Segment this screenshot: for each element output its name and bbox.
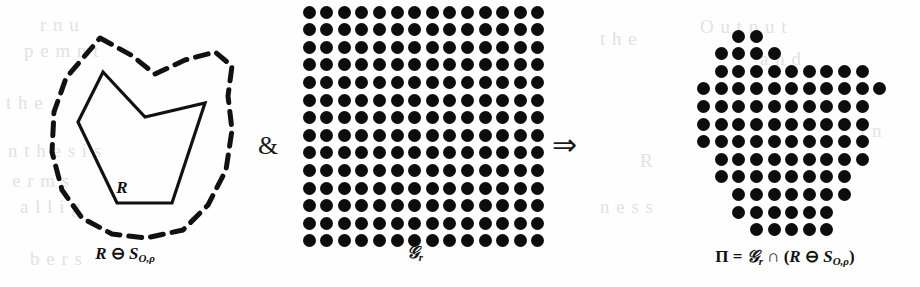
intersection-dot (750, 82, 763, 95)
intersection-dot (732, 65, 745, 78)
intersection-dot (697, 82, 710, 95)
intersection-dot (856, 100, 869, 113)
intersection-dot (785, 206, 798, 219)
caption-equals: = (729, 247, 747, 266)
intersection-dot (820, 118, 833, 131)
intersection-dot (838, 100, 851, 113)
intersection-dot (715, 153, 728, 166)
intersection-dot (715, 82, 728, 95)
intersection-dot (715, 100, 728, 113)
intersection-dot (750, 170, 763, 183)
intersection-dot (785, 118, 798, 131)
intersection-dot (768, 188, 781, 201)
intersection-dot (750, 188, 763, 201)
intersection-dot (697, 118, 710, 131)
intersection-dot (803, 206, 816, 219)
intersection-dot (732, 170, 745, 183)
caption-intersection: Π = 𝒢r ∩ (R ⊖ SO,ρ) (660, 246, 910, 267)
figure-canvas: r n up e m n tt h en t h e s i se r m sa… (0, 0, 920, 287)
intersection-dot (732, 188, 745, 201)
intersection-dot (732, 206, 745, 219)
intersection-dot (768, 118, 781, 131)
intersection-dot (785, 223, 798, 236)
intersection-dot (803, 223, 816, 236)
intersection-dot (820, 135, 833, 148)
intersection-dot (697, 135, 710, 148)
intersection-dot (750, 65, 763, 78)
intersection-dot (856, 65, 869, 78)
intersection-dot (820, 223, 833, 236)
intersection-dot (768, 65, 781, 78)
intersection-dot (750, 153, 763, 166)
intersection-dot (715, 135, 728, 148)
intersection-dot (768, 153, 781, 166)
intersection-dot (732, 82, 745, 95)
intersection-dot (768, 170, 781, 183)
intersection-dot (732, 135, 745, 148)
intersection-dot (838, 153, 851, 166)
intersection-dot (803, 82, 816, 95)
intersection-dot (838, 118, 851, 131)
intersection-dot (697, 100, 710, 113)
intersection-dot (785, 100, 798, 113)
caption-Pi: Π (715, 247, 728, 266)
intersection-dot (803, 135, 816, 148)
intersection-dot (715, 170, 728, 183)
intersection-dot (750, 30, 763, 43)
intersection-dot (715, 47, 728, 60)
intersection-dot (820, 188, 833, 201)
intersection-dot (732, 118, 745, 131)
intersection-dot (820, 206, 833, 219)
intersection-dot (820, 65, 833, 78)
intersection-dot (785, 135, 798, 148)
intersection-dot (856, 135, 869, 148)
intersection-dot (732, 153, 745, 166)
intersection-dot (838, 135, 851, 148)
intersection-dot (715, 118, 728, 131)
intersection-dot (820, 82, 833, 95)
intersection-dot (768, 82, 781, 95)
caption-script-G-right: 𝒢 (747, 247, 759, 266)
intersection-dot (732, 30, 745, 43)
caption-erosion-operator-right: ⊖ (801, 247, 824, 266)
intersection-dot (838, 170, 851, 183)
intersection-dot (768, 135, 781, 148)
intersection-dot (803, 118, 816, 131)
intersection-dot (768, 206, 781, 219)
intersection-dot (750, 100, 763, 113)
intersection-dot (785, 188, 798, 201)
intersection-dot (838, 188, 851, 201)
intersection-dot (750, 47, 763, 60)
caption-intersect-symbol: ∩ ( (763, 247, 789, 266)
intersection-dot (803, 170, 816, 183)
intersection-dot (820, 170, 833, 183)
intersection-dot (803, 188, 816, 201)
intersection-dots (0, 0, 920, 250)
intersection-dot (820, 100, 833, 113)
intersection-dot (732, 47, 745, 60)
intersection-dot (715, 65, 728, 78)
intersection-dot (768, 47, 781, 60)
intersection-dot (803, 153, 816, 166)
caption-S-right: S (823, 247, 832, 266)
intersection-dot (820, 153, 833, 166)
intersection-dot (750, 135, 763, 148)
intersection-dot (856, 118, 869, 131)
intersection-dot (732, 100, 745, 113)
intersection-dot (838, 65, 851, 78)
intersection-dot (768, 223, 781, 236)
intersection-dot (838, 82, 851, 95)
intersection-dot (750, 223, 763, 236)
intersection-dot (785, 82, 798, 95)
intersection-dot (803, 65, 816, 78)
caption-close-paren: ) (849, 247, 855, 266)
intersection-dot (768, 100, 781, 113)
intersection-dot (803, 100, 816, 113)
panel-intersection: Π = 𝒢r ∩ (R ⊖ SO,ρ) (0, 0, 920, 287)
intersection-dot (856, 153, 869, 166)
intersection-dot (785, 65, 798, 78)
caption-R-right: R (789, 247, 800, 266)
intersection-dot (785, 170, 798, 183)
intersection-dot (785, 153, 798, 166)
caption-S-subscript-right: O,ρ (833, 255, 849, 267)
